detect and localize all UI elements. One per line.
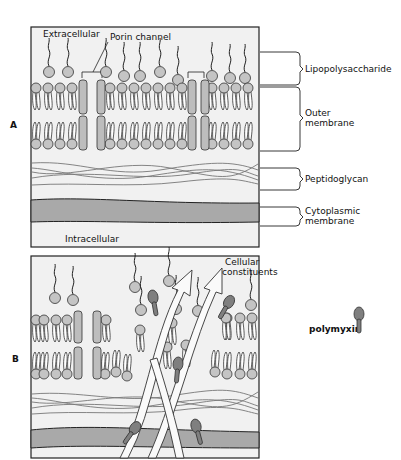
panel-a: A Extracellular Porin channel [10,27,259,247]
label-lipopolysaccharide: Lipopolysaccharide [305,64,392,74]
label-cytoplasmic-1: Cytoplasmic [305,206,360,216]
panel-b-letter: B [12,354,19,364]
label-peptidoglycan: Peptidoglycan [305,174,368,184]
label-cellular: Cellular [225,257,260,267]
label-outer-membrane-2: membrane [305,118,355,128]
label-outer-membrane-1: Outer [305,108,331,118]
legend: polymyxin [309,307,364,334]
panel-b: B [12,247,278,458]
label-porin-channel: Porin channel [110,32,171,42]
legend-label-polymyxin: polymyxin [309,324,361,334]
label-cytoplasmic-2: membrane [305,216,355,226]
diagram-canvas: A Extracellular Porin channel [0,0,401,460]
label-extracellular: Extracellular [43,29,100,39]
label-constituents: constituents [222,267,278,277]
panel-a-letter: A [10,120,17,130]
panel-a-brackets [260,52,303,226]
label-intracellular: Intracellular [65,234,119,244]
